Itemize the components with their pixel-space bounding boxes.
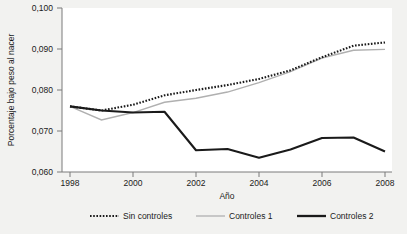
- chart-figure: 0,060 0,070 0,080 0,090 0,100 1998 2000 …: [0, 0, 407, 234]
- y-axis-title: Porcentaje bajo peso al nacer: [6, 34, 16, 147]
- x-tick-label: 1998: [61, 178, 80, 188]
- x-tick-label: 2000: [124, 178, 143, 188]
- y-tick-label: 0,070: [32, 126, 54, 136]
- x-axis-title: Año: [219, 191, 234, 201]
- legend-label: Sin controles: [123, 211, 172, 221]
- chart-legend: Sin controles Controles 1 Controles 2: [90, 211, 374, 221]
- legend-label: Controles 2: [330, 211, 374, 221]
- x-tick-label: 2008: [376, 178, 395, 188]
- y-tick-label: 0,100: [32, 3, 54, 13]
- y-tick-label: 0,090: [32, 44, 54, 54]
- legend-label: Controles 1: [229, 211, 273, 221]
- y-tick-label: 0,080: [32, 85, 54, 95]
- y-tick-label: 0,060: [32, 167, 54, 177]
- x-tick-label: 2006: [313, 178, 332, 188]
- x-tick-label: 2002: [187, 178, 206, 188]
- x-tick-label: 2004: [250, 178, 269, 188]
- plot-area-background: [62, 8, 392, 172]
